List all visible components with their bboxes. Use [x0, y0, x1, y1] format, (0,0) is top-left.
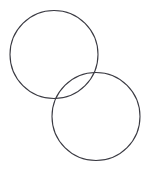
- two-circles-diagram: [0, 0, 148, 175]
- figure-canvas: [0, 0, 148, 175]
